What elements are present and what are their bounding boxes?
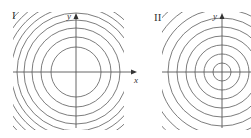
contour-panel-II: II y xyxy=(141,0,251,138)
contour-ring xyxy=(150,0,251,138)
x-axis-arrow-icon xyxy=(131,70,137,75)
contour-rings-I xyxy=(0,0,165,138)
contour-figure: I x y II y xyxy=(0,0,251,138)
contour-ring xyxy=(0,0,153,138)
x-axis-label-I: x xyxy=(133,75,138,85)
panel-label-I: I xyxy=(12,9,16,21)
y-axis-label-II: y xyxy=(212,11,217,21)
y-axis-label-I: y xyxy=(66,11,71,21)
y-axis-arrow-icon xyxy=(220,13,225,19)
contour-panel-I: I x y xyxy=(0,0,165,138)
panel-label-II: II xyxy=(154,11,162,23)
y-axis-arrow-icon xyxy=(74,13,79,19)
